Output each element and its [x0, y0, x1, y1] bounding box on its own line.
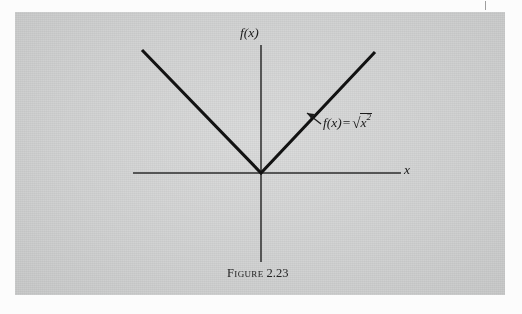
radicand-exponent: 2: [367, 112, 372, 122]
y-axis-label: f(x): [240, 26, 259, 40]
annotation-function-name: f(x): [323, 115, 342, 130]
annotation-radicand: x2: [360, 113, 373, 130]
figure-caption-label: Figure: [227, 266, 264, 280]
scan-artifact-mark: [485, 1, 486, 10]
figure-caption: Figure2.23: [227, 267, 288, 280]
abs-value-curve: [142, 50, 375, 173]
annotation-equals-sign: =: [342, 115, 353, 130]
figure-caption-number: 2.23: [264, 266, 289, 280]
graph-plot: [15, 12, 505, 295]
x-axis-label: x: [404, 163, 410, 177]
function-annotation: f(x)=√x2: [323, 113, 372, 130]
radical-sign-icon: √: [352, 115, 359, 131]
annotation-radical: √x2: [352, 113, 372, 130]
figure-page: f(x) x f(x)=√x2 Figure2.23: [0, 0, 522, 314]
radicand-base: x: [361, 115, 367, 130]
